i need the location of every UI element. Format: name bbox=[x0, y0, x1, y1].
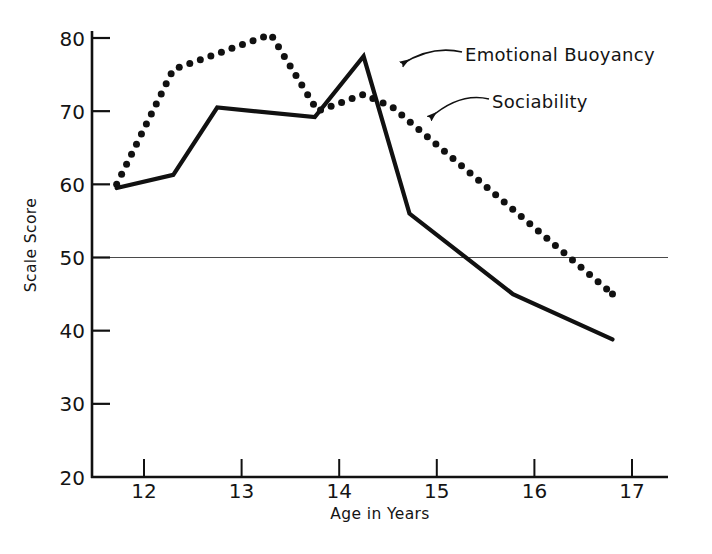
series-dot bbox=[163, 80, 170, 87]
series-dot bbox=[509, 206, 516, 213]
series-dot bbox=[197, 56, 204, 63]
x-tick-label-16: 16 bbox=[522, 479, 547, 503]
x-tick-label-13: 13 bbox=[229, 479, 254, 503]
series-dot bbox=[441, 148, 448, 155]
series-dot bbox=[158, 90, 165, 97]
series-dot bbox=[168, 70, 175, 77]
series-dot bbox=[560, 249, 567, 256]
series-dot bbox=[228, 45, 235, 52]
series-dot bbox=[328, 103, 335, 110]
series-dot bbox=[298, 82, 305, 89]
series-dot bbox=[287, 62, 294, 69]
x-tick-label-12: 12 bbox=[131, 479, 156, 503]
series-dot bbox=[153, 100, 160, 107]
series-dot bbox=[317, 107, 324, 114]
series-dot bbox=[380, 100, 387, 107]
x-axis-ticks: 121314151617 bbox=[131, 459, 644, 503]
series-dot bbox=[432, 141, 439, 148]
series-dot bbox=[526, 220, 533, 227]
x-tick-label-14: 14 bbox=[326, 479, 351, 503]
y-tick-label-40: 40 bbox=[60, 319, 85, 343]
series-dot bbox=[349, 95, 356, 102]
series-dot bbox=[407, 119, 414, 126]
series-dot bbox=[118, 171, 125, 178]
series-dot bbox=[207, 52, 214, 59]
series-dot bbox=[492, 191, 499, 198]
y-tick-label-80: 80 bbox=[60, 27, 85, 51]
series-dot bbox=[424, 133, 431, 140]
series-dot bbox=[128, 151, 135, 158]
series-dot bbox=[398, 112, 405, 119]
y-tick-label-50: 50 bbox=[60, 246, 85, 270]
series-dot bbox=[138, 131, 145, 138]
series-dot bbox=[569, 257, 576, 264]
x-tick-label-17: 17 bbox=[619, 479, 644, 503]
series-dot bbox=[369, 95, 376, 102]
y-tick-label-60: 60 bbox=[60, 173, 85, 197]
series-dot bbox=[543, 235, 550, 242]
series-dot bbox=[218, 49, 225, 56]
series-annotation-label-1: Sociability bbox=[492, 91, 588, 112]
series-dot bbox=[458, 162, 465, 169]
x-tick-label-15: 15 bbox=[424, 479, 449, 503]
series-dot bbox=[535, 228, 542, 235]
series-dot bbox=[518, 213, 525, 220]
annotation-arrow-0 bbox=[402, 50, 462, 64]
series-dot bbox=[281, 53, 288, 60]
series-dot bbox=[609, 291, 616, 298]
chart-figure: 20304050607080 121314151617 Emotional Bu… bbox=[0, 0, 712, 554]
series-dot bbox=[148, 111, 155, 118]
y-axis-ticks: 20304050607080 bbox=[60, 27, 110, 490]
series-dot bbox=[578, 264, 585, 271]
y-tick-label-20: 20 bbox=[60, 466, 85, 490]
annotation-layer: Emotional BuoyancySociability bbox=[402, 44, 655, 118]
series-dot bbox=[310, 101, 317, 108]
series-dot bbox=[449, 155, 456, 162]
annotation-arrow-1 bbox=[430, 98, 489, 118]
series-dot bbox=[390, 104, 397, 111]
y-tick-label-70: 70 bbox=[60, 100, 85, 124]
series-dot bbox=[359, 91, 366, 98]
series-dot bbox=[338, 99, 345, 106]
series-dot bbox=[292, 72, 299, 79]
series-dot bbox=[133, 141, 140, 148]
series-dot bbox=[250, 37, 257, 44]
series-annotation-label-0: Emotional Buoyancy bbox=[465, 44, 655, 65]
series-dot bbox=[186, 60, 193, 67]
series-dot bbox=[143, 121, 150, 128]
series-dot bbox=[176, 64, 183, 71]
series-dot bbox=[415, 126, 422, 133]
series-dot bbox=[123, 161, 130, 168]
y-axis-title: Scale Score bbox=[22, 198, 40, 292]
series-dot bbox=[304, 91, 311, 98]
series-dot bbox=[269, 34, 276, 41]
series-dot bbox=[239, 41, 246, 48]
series-dot bbox=[603, 286, 610, 293]
x-axis-title: Age in Years bbox=[330, 505, 430, 523]
series-dot bbox=[275, 43, 282, 50]
series-dot bbox=[586, 271, 593, 278]
series-layer bbox=[113, 33, 616, 339]
series-dot bbox=[475, 177, 482, 184]
y-tick-label-30: 30 bbox=[60, 392, 85, 416]
series-dot bbox=[113, 181, 120, 188]
series-dot bbox=[501, 199, 508, 206]
series-dot bbox=[552, 242, 559, 249]
series-dot bbox=[484, 184, 491, 191]
chart-canvas: 20304050607080 121314151617 Emotional Bu… bbox=[0, 0, 712, 554]
series-dot bbox=[260, 33, 267, 40]
series-dot bbox=[467, 170, 474, 177]
series-dot bbox=[595, 278, 602, 285]
